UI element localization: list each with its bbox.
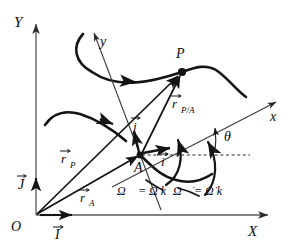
figure-root: Y X O J I y x i j P A θ: [0, 0, 294, 248]
unit-vector-i-arrow: [143, 148, 170, 153]
label-point-A: A: [133, 160, 143, 175]
path-of-A-curve-right: [140, 155, 212, 182]
path-of-P-direction-arrow: [123, 81, 136, 82]
label-unit-vector-J: J: [17, 174, 26, 192]
equation-angular-acceleration: Ω⃗̇ = Ω̇ k⃗: [173, 184, 231, 198]
label-global-X: X: [247, 223, 258, 239]
point-marker-A: [137, 152, 144, 159]
kinematics-diagram-svg: Y X O J I y x i j P A θ: [0, 0, 294, 248]
label-vector-r-A: r⃗ A: [79, 189, 95, 209]
equation-angular-acceleration-text: Ω⃗̇ = Ω̇ k⃗: [173, 184, 231, 198]
label-unit-vector-J-text: J: [18, 177, 25, 192]
path-of-P-curve-right: [182, 67, 246, 97]
path-of-A-curve-left: [45, 112, 126, 141]
label-unit-vector-i-text: i: [161, 154, 165, 169]
label-unit-vector-I-text: I: [54, 227, 61, 242]
label-vector-r-P-subscript: P: [69, 160, 76, 170]
label-vector-r-A-subscript: A: [88, 198, 95, 208]
path-of-P-curve-left: [76, 34, 182, 83]
theta-angle-arc: [215, 128, 216, 152]
label-unit-vector-I: I: [53, 225, 63, 242]
equation-angular-velocity: Ω⃗ = Ω k⃗: [117, 184, 175, 198]
label-body-y: y: [98, 34, 107, 49]
label-theta: θ: [224, 129, 231, 144]
label-body-x: x: [269, 109, 277, 124]
label-global-Y: Y: [14, 14, 24, 30]
point-marker-P: [178, 68, 186, 76]
label-unit-vector-i: i: [159, 153, 168, 170]
label-point-P: P: [175, 46, 185, 61]
label-vector-r-P-over-A: r⃗ P/A: [171, 95, 195, 116]
label-origin-O: O: [11, 219, 21, 234]
label-vector-r-PA-subscript: P/A: [180, 105, 195, 115]
label-unit-vector-j: j: [131, 117, 140, 135]
equation-angular-velocity-text: Ω⃗ = Ω k⃗: [117, 184, 175, 198]
label-vector-r-P: r⃗ P: [60, 150, 76, 171]
vector-r-P-over-A: [142, 76, 180, 153]
